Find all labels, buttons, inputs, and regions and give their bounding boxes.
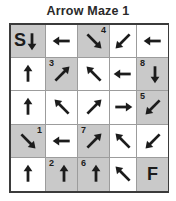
maze-cell-r4c0 <box>11 158 46 191</box>
maze-cell-r0c2: 4 <box>78 25 110 58</box>
maze-cell-r1c3 <box>110 58 137 91</box>
arrow-left-icon <box>140 28 166 54</box>
arrow-down-left-icon <box>140 128 166 154</box>
maze-cell-r0c0: S <box>11 25 46 58</box>
start-label: S <box>14 31 26 49</box>
maze-cell-r1c2 <box>78 58 110 91</box>
cell-number: 1 <box>37 125 42 135</box>
maze-cell-r4c4: F <box>137 158 168 191</box>
maze-cell-r0c4 <box>137 25 168 58</box>
maze-cell-r3c4 <box>137 125 168 158</box>
cell-number: 8 <box>140 58 145 68</box>
maze-cell-r2c1 <box>46 91 78 124</box>
arrow-up-icon <box>83 161 109 187</box>
arrow-left-icon <box>49 128 75 154</box>
arrow-down-icon <box>142 61 168 87</box>
maze-cell-r2c2 <box>78 91 110 124</box>
finish-label: F <box>147 165 158 183</box>
maze-grid: S43851726F <box>9 23 169 193</box>
maze-cell-r2c4: 5 <box>137 91 168 124</box>
arrow-up-right-icon <box>81 94 107 120</box>
cell-number: 6 <box>81 158 86 168</box>
cell-number: 4 <box>101 25 106 35</box>
arrow-up-icon <box>51 161 77 187</box>
maze-cell-r3c1 <box>46 125 78 158</box>
cell-number: 2 <box>49 158 54 168</box>
arrow-up-left-icon <box>81 61 107 87</box>
maze-cell-r3c0: 1 <box>11 125 46 158</box>
maze-cell-r4c1: 2 <box>46 158 78 191</box>
maze-cell-r1c0 <box>11 58 46 91</box>
maze-cell-r1c1: 3 <box>46 58 78 91</box>
arrow-maze-page: Arrow Maze 1 S43851726F <box>0 0 176 201</box>
maze-cell-r4c3 <box>110 158 137 191</box>
arrow-up-left-icon <box>49 94 75 120</box>
cell-number: 5 <box>140 91 145 101</box>
arrow-left-icon <box>110 61 136 87</box>
cell-number: 3 <box>49 58 54 68</box>
maze-cell-r0c1 <box>46 25 78 58</box>
arrow-left-icon <box>49 28 75 54</box>
maze-cell-r2c0 <box>11 91 46 124</box>
arrow-down-left-icon <box>110 28 136 54</box>
maze-cell-r0c3 <box>110 25 137 58</box>
maze-cell-r2c3 <box>110 91 137 124</box>
arrow-up-icon <box>15 94 41 120</box>
maze-cell-r1c4: 8 <box>137 58 168 91</box>
maze-cell-r3c2: 7 <box>78 125 110 158</box>
arrow-right-icon <box>110 94 136 120</box>
puzzle-title: Arrow Maze 1 <box>0 4 176 18</box>
maze-cell-r3c3 <box>110 125 137 158</box>
arrow-up-left-icon <box>110 161 136 187</box>
maze-cell-r4c2: 6 <box>78 158 110 191</box>
arrow-up-left-icon <box>110 128 136 154</box>
arrow-up-icon <box>15 161 41 187</box>
arrow-up-icon <box>15 61 41 87</box>
cell-number: 7 <box>81 125 86 135</box>
